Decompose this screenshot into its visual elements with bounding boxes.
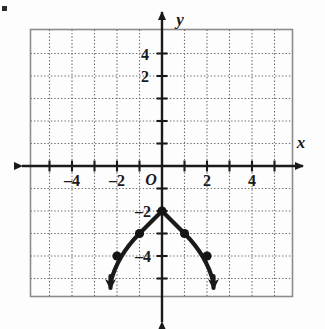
- x-tick-label-neg4: –4: [63, 172, 80, 189]
- x-tick-label-neg2: –2: [108, 172, 125, 189]
- corner-registration-mark: [2, 6, 7, 11]
- x-tick-label-pos2: 2: [203, 172, 211, 189]
- y-tick-label-neg2: –2: [134, 203, 151, 220]
- x-axis-label: x: [296, 133, 306, 152]
- point-2-neg4: [202, 251, 211, 260]
- point-1-neg3: [180, 229, 189, 238]
- y-tick-label-neg4: –4: [134, 248, 151, 265]
- y-axis-label: y: [174, 10, 184, 29]
- graph-figure: x y O –4 –2 2 4 2 4 –2 –4: [0, 0, 325, 329]
- point-neg1-neg3: [135, 229, 144, 238]
- point-0-neg2: [157, 206, 166, 215]
- point-neg2-neg4: [112, 251, 121, 260]
- x-tick-label-pos4: 4: [248, 172, 256, 189]
- origin-label: O: [145, 171, 157, 188]
- y-tick-label-pos2: 2: [141, 68, 149, 85]
- coordinate-plane-svg: x y O –4 –2 2 4 2 4 –2 –4: [0, 0, 325, 329]
- y-tick-label-pos4: 4: [141, 46, 149, 63]
